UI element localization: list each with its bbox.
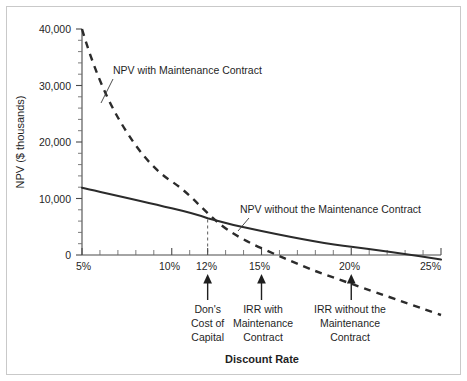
annotation-irr-without-maintenance: IRR without the Maintenance Contract — [314, 274, 386, 343]
x-tick-label-20: 20% — [339, 260, 360, 272]
npv-profile-chart: 0 10,000 20,000 30,000 40,000 NPV ($ tho… — [0, 0, 467, 381]
annot-irr-without-line-2: Maintenance — [320, 317, 380, 329]
x-tick-label-5: 5% — [76, 260, 91, 272]
x-tick-label-15: 15% — [249, 260, 270, 272]
annotation-don-cost-of-capital: Don's Cost of Capital — [191, 274, 224, 343]
up-arrow-icon — [203, 274, 212, 284]
y-tick-label-10000: 10,000 — [39, 193, 71, 205]
callout-with-contract-leader — [101, 79, 113, 103]
callout-without-contract-label: NPV without the Maintenance Contract — [240, 203, 421, 215]
annot-irr-without-line-1: IRR without the — [314, 303, 386, 315]
y-tick-label-30000: 30,000 — [39, 80, 71, 92]
callout-without-contract: NPV without the Maintenance Contract — [238, 203, 421, 231]
y-axis-title: NPV ($ thousands) — [14, 96, 26, 189]
annot-irr-with-line-2: Maintenance — [233, 317, 293, 329]
annotation-irr-with-maintenance: IRR with Maintenance Contract — [233, 274, 293, 343]
annot-irr-with-line-3: Contract — [243, 331, 283, 343]
y-tick-label-0: 0 — [65, 249, 71, 261]
annot-irr-without-line-3: Contract — [330, 331, 370, 343]
annot-don-line-1: Don's — [194, 303, 221, 315]
annot-don-line-3: Capital — [191, 331, 224, 343]
up-arrow-icon — [257, 274, 266, 284]
x-tick-label-10: 10% — [159, 260, 180, 272]
y-axis: 0 10,000 20,000 30,000 40,000 NPV ($ tho… — [14, 23, 82, 261]
x-tick-label-12: 12% — [196, 260, 217, 272]
figure-container: 0 10,000 20,000 30,000 40,000 NPV ($ tho… — [0, 0, 467, 381]
callout-with-contract: NPV with Maintenance Contract — [101, 64, 262, 103]
x-tick-label-25: 25% — [420, 260, 441, 272]
y-tick-label-40000: 40,000 — [39, 23, 71, 35]
annot-don-line-2: Cost of — [191, 317, 224, 329]
callout-with-contract-label: NPV with Maintenance Contract — [113, 64, 262, 76]
up-arrow-icon — [347, 274, 356, 284]
y-tick-label-20000: 20,000 — [39, 136, 71, 148]
annot-irr-with-line-1: IRR with — [243, 303, 283, 315]
x-axis-title: Discount Rate — [225, 353, 299, 365]
